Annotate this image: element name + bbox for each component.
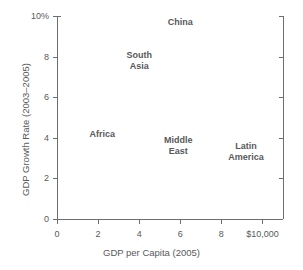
data-point-label: Middle East: [164, 135, 193, 157]
x-axis-tick-label: 6: [178, 229, 183, 239]
y-axis-title-container: GDP Growth Rate (2003–2005): [8, 0, 22, 230]
x-axis-tick: [139, 220, 140, 224]
data-point-label: Africa: [89, 128, 115, 139]
y-axis-tick: [53, 178, 57, 179]
x-axis-tick: [98, 220, 99, 224]
x-axis-tick: [180, 220, 181, 224]
y-axis-title: GDP Growth Rate (2003–2005): [20, 63, 31, 196]
data-point-label: South Asia: [126, 50, 152, 72]
x-axis-tick-label: 2: [96, 229, 101, 239]
x-axis-tick-label: 4: [137, 229, 142, 239]
y-axis-tick: [53, 97, 57, 98]
y-axis-left-line: [57, 16, 58, 219]
y-axis-tick-right: [279, 97, 283, 98]
x-axis-tick-label: 8: [219, 229, 224, 239]
y-axis-tick: [53, 138, 57, 139]
y-axis-tick-right: [279, 178, 283, 179]
y-axis-right-line: [283, 16, 284, 219]
data-point-label: China: [168, 17, 193, 28]
x-axis-tick: [57, 220, 58, 224]
y-axis-tick: [53, 57, 57, 58]
y-axis-tick-right: [279, 138, 283, 139]
y-axis-tick: [53, 16, 57, 17]
x-axis-tick-label: $10,000: [246, 229, 279, 239]
axis-top-cap: [57, 16, 61, 17]
gdp-growth-scatter-chart: 0246810% 02468$10,000 ChinaSouth AsiaAfr…: [0, 0, 303, 270]
y-axis-tick-right: [279, 57, 283, 58]
x-axis-tick: [262, 220, 263, 224]
x-axis-tick-label: 0: [54, 229, 59, 239]
x-axis-title: GDP per Capita (2005): [0, 247, 303, 258]
data-point-label: Latin America: [228, 141, 264, 163]
x-axis-line: [57, 219, 283, 220]
x-axis-tick: [221, 220, 222, 224]
y-axis-tick-right: [279, 16, 283, 17]
